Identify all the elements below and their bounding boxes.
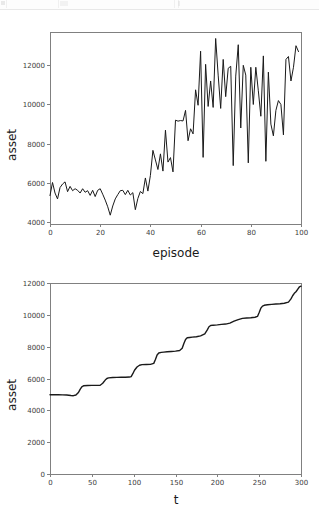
cutoff-toolbar-sliver <box>0 0 319 10</box>
y-axis-ticks-top: 4000600080001000012000 <box>23 62 50 227</box>
y-tick-label: 2000 <box>27 439 45 447</box>
x-tick-label: 60 <box>197 229 206 237</box>
x-tick-label: 20 <box>96 229 105 237</box>
y-tick-label: 12000 <box>23 280 45 288</box>
y-tick-label: 6000 <box>27 376 45 384</box>
y-axis-ticks-bottom: 020004000600080001000012000 <box>23 280 50 479</box>
x-axis-ticks-top: 020406080100 <box>48 224 308 237</box>
x-tick-label: 100 <box>295 229 308 237</box>
x-tick-label: 300 <box>295 479 308 487</box>
series-group-bottom <box>50 286 301 396</box>
x-tick-label: 80 <box>247 229 256 237</box>
y-tick-label: 0 <box>41 471 45 479</box>
x-tick-label: 200 <box>211 479 224 487</box>
page-root: 4000600080001000012000 020406080100 asse… <box>0 0 319 507</box>
x-tick-label: 100 <box>128 479 141 487</box>
y-tick-label: 4000 <box>27 219 45 227</box>
y-axis-title-top: asset <box>5 129 19 161</box>
episode-asset-figure: 4000600080001000012000 020406080100 asse… <box>0 12 319 260</box>
series-path <box>50 38 298 215</box>
x-tick-label: 0 <box>48 229 52 237</box>
y-tick-label: 10000 <box>23 312 45 320</box>
series-path <box>50 286 301 396</box>
y-tick-label: 6000 <box>27 180 45 188</box>
x-axis-ticks-bottom: 050100150200250300 <box>48 474 308 487</box>
plot-frame-bottom <box>51 284 302 475</box>
y-tick-label: 4000 <box>27 407 45 415</box>
y-tick-label: 8000 <box>27 141 45 149</box>
y-tick-label: 8000 <box>27 344 45 352</box>
x-tick-label: 250 <box>253 479 266 487</box>
x-axis-title-bottom: t <box>174 493 179 507</box>
y-axis-title-bottom: asset <box>5 379 19 411</box>
episode-asset-svg: 4000600080001000012000 020406080100 asse… <box>0 12 319 260</box>
t-asset-figure: 020004000600080001000012000 050100150200… <box>0 262 319 507</box>
x-tick-label: 150 <box>170 479 183 487</box>
y-tick-label: 12000 <box>23 62 45 70</box>
x-tick-label: 50 <box>88 479 97 487</box>
x-tick-label: 40 <box>146 229 155 237</box>
series-group-top <box>50 38 298 215</box>
t-asset-svg: 020004000600080001000012000 050100150200… <box>0 262 319 507</box>
x-axis-title-top: episode <box>153 246 200 260</box>
x-tick-label: 0 <box>48 479 52 487</box>
y-tick-label: 10000 <box>23 101 45 109</box>
